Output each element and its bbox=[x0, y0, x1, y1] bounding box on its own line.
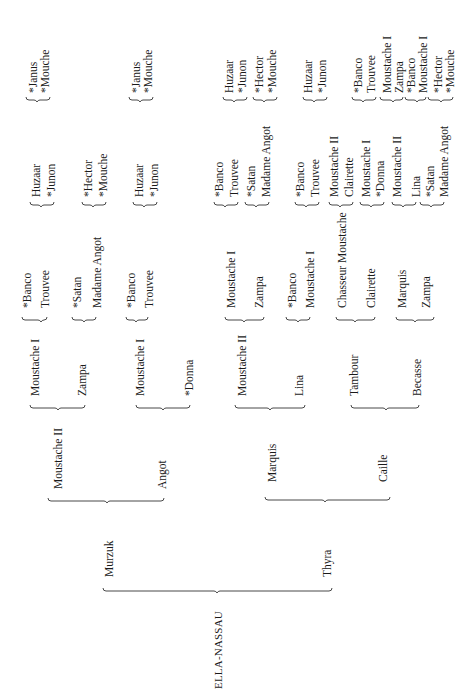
brace-gen5-1 bbox=[30, 202, 54, 207]
gen5-label: *Junon bbox=[45, 164, 57, 197]
gen6-label: Huzaar bbox=[223, 60, 235, 93]
dam-label: Thyra bbox=[321, 550, 333, 577]
gen4-label: Trouvee bbox=[39, 270, 51, 308]
brace-gen6-4 bbox=[253, 97, 277, 102]
granddam-paternal-label: Angot bbox=[156, 460, 168, 489]
brace-gen2-murzuk bbox=[48, 498, 164, 503]
gen6-label: Zampa bbox=[393, 61, 405, 93]
gen6-label: *Mouche bbox=[266, 50, 278, 93]
granddam-maternal-label: Caille bbox=[377, 455, 389, 482]
brace-gen6-2 bbox=[129, 97, 153, 102]
gen6-label: *Banco bbox=[352, 58, 364, 93]
gen4-label: *Satan bbox=[71, 277, 83, 308]
gen4-label: Clairette bbox=[365, 268, 377, 308]
gen3-label: Moustache II bbox=[236, 335, 248, 396]
brace-gen6-9 bbox=[428, 97, 453, 102]
gen4-label: Moustache I bbox=[304, 251, 316, 308]
brace-gen6-5 bbox=[303, 97, 327, 102]
brace-gen5-3 bbox=[133, 202, 157, 207]
brace-gen3-3 bbox=[235, 405, 305, 410]
brace-gen4-1 bbox=[22, 317, 47, 322]
brace-gen6-6 bbox=[352, 97, 376, 102]
brace-gen4-4 bbox=[225, 317, 264, 322]
gen4-label: *Banco bbox=[286, 273, 298, 308]
gen3-label: Moustache I bbox=[29, 339, 41, 396]
brace-gen6-8 bbox=[405, 97, 426, 102]
gen4-label: Zampa bbox=[253, 276, 265, 308]
gen5-label: *Banco bbox=[294, 162, 306, 197]
gen3-label: Tambour bbox=[348, 355, 360, 396]
gen4-label: Madame Angot bbox=[91, 237, 103, 308]
brace-gen5-8 bbox=[360, 202, 384, 207]
brace-gen6-7 bbox=[380, 97, 403, 102]
gen5-label: *Mouche bbox=[97, 154, 109, 197]
root-horse-label: ELLA-NASSAU bbox=[212, 611, 224, 689]
brace-gen4-3 bbox=[126, 317, 148, 322]
gen6-label: *Mouche bbox=[444, 50, 456, 93]
gen6-label: *Janus bbox=[130, 62, 142, 93]
grandsire-maternal-label: Marquis bbox=[266, 444, 278, 482]
brace-gen4-6 bbox=[336, 317, 375, 322]
brace-gen5-4 bbox=[214, 202, 238, 207]
gen3-label: Zampa bbox=[76, 364, 88, 396]
gen6-label: *Junon bbox=[316, 60, 328, 93]
pedigree-chart: ELLA-NASSAU Murzuk Thyra Moustache II An… bbox=[0, 0, 465, 689]
gen4-label: *Banco bbox=[21, 273, 33, 308]
gen5-label: *Banco bbox=[213, 162, 225, 197]
gen3-label: Becasse bbox=[411, 359, 423, 396]
gen4-label: Chasseur Moustache bbox=[336, 213, 348, 309]
brace-gen4-2 bbox=[72, 317, 96, 322]
gen5-label: Madame Angot bbox=[260, 126, 272, 197]
gen6-label: *Hector bbox=[253, 56, 265, 93]
brace-gen5-10 bbox=[420, 202, 444, 207]
brace-gen5-9 bbox=[392, 202, 416, 207]
gen5-label: Madame Angot bbox=[438, 126, 450, 197]
gen6-label: *Banco bbox=[405, 58, 417, 93]
gen3-label: Moustache I bbox=[134, 339, 146, 396]
gen6-label: Trouvee bbox=[365, 55, 377, 93]
gen6-label: Moustache I bbox=[381, 36, 393, 93]
grandsire-paternal-label: Moustache II bbox=[52, 428, 64, 489]
gen5-label: Huzaar bbox=[30, 164, 42, 197]
gen5-label: *Hector bbox=[82, 160, 94, 197]
brace-gen5-5 bbox=[245, 202, 269, 207]
gen5-label: *Donna bbox=[374, 161, 386, 197]
gen3-label: *Donna bbox=[183, 360, 195, 396]
brace-gen5-7 bbox=[329, 202, 353, 207]
gen6-label: *Mouche bbox=[142, 50, 154, 93]
gen4-label: Zampa bbox=[420, 276, 432, 308]
gen6-label: Moustache I bbox=[417, 36, 429, 93]
gen6-label: *Janus bbox=[27, 62, 39, 93]
gen5-label: *Satan bbox=[245, 166, 257, 197]
brace-gen6-3 bbox=[223, 97, 247, 102]
gen5-label: Clairette bbox=[343, 157, 355, 197]
gen3-label: Lina bbox=[293, 375, 305, 396]
gen5-label: Lina bbox=[410, 176, 422, 197]
brace-gen5-6 bbox=[295, 202, 319, 207]
brace-gen3-1 bbox=[30, 405, 85, 410]
brace-gen4-7 bbox=[396, 317, 434, 322]
gen5-label: Moustache II bbox=[391, 136, 403, 197]
gen6-label: *Mouche bbox=[39, 50, 51, 93]
gen5-label: Moustache II bbox=[328, 136, 340, 197]
gen6-label: *Hector bbox=[432, 56, 444, 93]
gen5-label: Trouvee bbox=[228, 159, 240, 197]
sire-label: Murzuk bbox=[103, 541, 115, 577]
brace-gen3-2 bbox=[136, 405, 190, 410]
brace-gen3-4 bbox=[351, 405, 419, 410]
brace-gen6-1 bbox=[26, 97, 50, 102]
gen6-label: *Junon bbox=[236, 60, 248, 93]
gen4-label: *Banco bbox=[125, 273, 137, 308]
gen5-label: *Junon bbox=[148, 164, 160, 197]
gen4-label: Marquis bbox=[396, 270, 408, 308]
brace-gen5-2 bbox=[82, 202, 106, 207]
bracket-lines bbox=[0, 0, 465, 689]
gen5-label: Huzaar bbox=[133, 164, 145, 197]
gen5-label: Trouvee bbox=[309, 159, 321, 197]
gen5-label: *Satan bbox=[424, 166, 436, 197]
gen6-label: Huzaar bbox=[302, 60, 314, 93]
brace-gen2-thyra bbox=[265, 497, 390, 502]
gen4-label: Trouvee bbox=[143, 270, 155, 308]
gen5-label: Moustache I bbox=[360, 140, 372, 197]
gen4-label: Moustache I bbox=[225, 251, 237, 308]
